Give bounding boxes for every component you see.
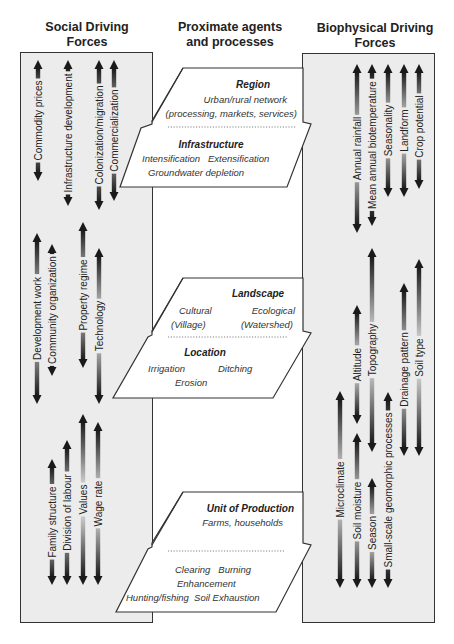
force-arrow: Community organization [47,244,58,376]
force-arrow: Division of labour [62,440,73,585]
force-label: Infrastructure development [63,73,74,192]
force-arrow: Technology [94,248,105,404]
location-erosion: Erosion [175,377,207,388]
region-title: Region [236,79,270,90]
force-arrow: Mean annual biotemperature [367,64,378,226]
arrow-head-down-icon [353,224,362,233]
arrow-head-up-icon [79,222,88,231]
force-label: Wage rate [93,480,104,526]
force-label: Small-scale geomorphic processes [383,412,394,567]
arrow-head-down-icon [94,576,103,585]
production-line-3: Hunting/fishing Soil Exhaustion [126,592,260,603]
force-label: Seasonality [383,105,394,157]
infrastructure-title: Infrastructure [178,139,243,150]
arrow-head-down-icon [48,367,57,376]
landscape-village: (Village) [171,319,206,330]
landscape-title: Landscape [232,288,285,299]
arrow-head-up-icon [34,60,43,69]
arrow-head-up-icon [48,459,57,468]
force-arrow: Topography [367,248,378,452]
force-arrow: Development work [32,233,43,404]
force-arrow: Soil moisture [352,433,363,588]
arrow-head-up-icon [415,64,424,73]
location-irrigation: Irrigation [148,363,185,374]
force-label: Soil moisture [352,481,363,539]
arrow-head-up-icon [94,422,103,431]
force-label: Altitude [352,347,363,381]
force-label: Technology [94,301,105,352]
force-arrow: Infrastructure development [63,60,74,206]
force-label: Property regime [78,259,89,331]
region-infrastructure-box: Region Urban/rural network (processing, … [120,68,311,187]
force-label: Landform [399,109,410,151]
biophysical-forces-arrows: Annual rainfallMean annual biotemperatur… [335,64,425,588]
arrow-head-up-icon [110,60,119,69]
location-title: Location [184,347,226,358]
force-arrow: Season [367,478,378,588]
arrow-head-down-icon [336,579,345,588]
arrow-head-up-icon [368,64,377,73]
arrow-head-down-icon [95,395,104,404]
arrow-head-down-icon [79,359,88,368]
force-label: Commodity prices [33,80,44,160]
force-arrow: Microclimate [335,391,346,588]
arrow-head-down-icon [368,217,377,226]
force-label: Mean annual biotemperature [367,81,378,209]
production-line-2: Enhancement [177,578,236,589]
force-label: Colonization/migration [94,86,105,185]
force-arrow: Property regime [78,222,89,368]
arrow-head-up-icon [415,259,424,268]
force-arrow: Wage rate [93,422,104,585]
arrow-head-up-icon [400,283,409,292]
arrow-head-up-icon [48,244,57,253]
arrow-head-down-icon [64,197,73,206]
unit-of-production-title: Unit of Production [207,503,294,514]
arrow-head-down-icon [368,443,377,452]
force-label: Microclimate [335,461,346,518]
arrow-head-up-icon [95,248,104,257]
arrow-head-down-icon [79,576,88,585]
force-label: Season [367,516,378,550]
force-arrow: Annual rainfall [352,64,363,233]
region-line-2: (processing, markets, services) [166,108,297,119]
force-label: Development work [32,276,43,360]
arrow-head-down-icon [353,415,362,424]
diagram-canvas: Commodity pricesInfrastructure developme… [0,0,454,644]
arrow-head-up-icon [384,392,393,401]
arrow-head-down-icon [368,579,377,588]
infrastructure-line-2: Groundwater depletion [148,167,244,178]
force-arrow: Landform [399,64,410,197]
arrow-head-up-icon [353,64,362,73]
arrow-head-down-icon [384,188,393,197]
arrow-head-down-icon [110,192,119,201]
production-line-1: Clearing Burning [175,564,252,575]
arrow-head-down-icon [95,201,104,210]
arrow-head-up-icon [368,248,377,257]
arrow-head-up-icon [353,305,362,314]
force-arrow: Drainage pattern [399,283,410,456]
arrow-head-down-icon [63,576,72,585]
force-label: Crop potential [414,95,425,157]
landscape-cultural: Cultural [179,305,213,316]
unit-of-production-box: Unit of Production Farms, households Cle… [116,492,311,612]
force-arrow: Small-scale geomorphic processes [383,392,394,588]
arrow-head-up-icon [368,478,377,487]
infrastructure-line-1: Intensification Extensification [142,153,269,164]
force-label: Drainage pattern [399,332,410,407]
landscape-watershed: (Watershed) [241,319,293,330]
force-arrow: Altitude [352,305,363,424]
arrow-head-up-icon [63,440,72,449]
force-arrow: Commercialization [109,60,120,201]
arrow-head-up-icon [400,64,409,73]
force-label: Family structure [47,486,58,558]
force-label: Soil type [414,338,425,377]
force-arrow: Crop potential [414,64,425,189]
arrow-head-down-icon [353,579,362,588]
region-line-1: Urban/rural network [204,94,289,105]
force-label: Community organization [47,256,58,364]
landscape-ecological: Ecological [252,305,296,316]
arrow-head-down-icon [34,172,43,181]
arrow-head-up-icon [95,60,104,69]
arrow-head-down-icon [400,188,409,197]
force-arrow: Soil type [414,259,425,456]
